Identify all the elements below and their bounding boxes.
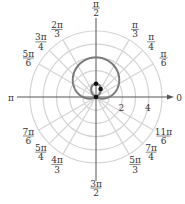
angle-numerator: π bbox=[132, 20, 138, 30]
angle-label: π bbox=[8, 93, 14, 103]
angle-denominator: 3 bbox=[54, 165, 60, 175]
angle-label: 7π4 bbox=[145, 143, 157, 163]
angle-label: 3π2 bbox=[90, 179, 102, 199]
angle-numerator: 5π bbox=[129, 155, 141, 165]
angle-label: 4π3 bbox=[51, 155, 63, 175]
angle-label: 3π4 bbox=[35, 32, 47, 52]
angle-label-text: 0 bbox=[176, 93, 182, 103]
arrow-icon bbox=[167, 95, 174, 100]
angle-label-text: π bbox=[8, 93, 14, 103]
angle-denominator: 6 bbox=[161, 58, 167, 68]
angle-label: 7π6 bbox=[23, 127, 35, 147]
angle-denominator: 3 bbox=[54, 29, 60, 39]
angle-denominator: 4 bbox=[38, 42, 44, 52]
angle-denominator: 2 bbox=[93, 188, 99, 198]
angle-denominator: 3 bbox=[132, 165, 138, 175]
angle-label: 5π3 bbox=[129, 155, 141, 175]
data-point bbox=[98, 87, 103, 92]
angle-numerator: π bbox=[161, 49, 167, 59]
angle-numerator: 4π bbox=[51, 155, 63, 165]
radial-tick-label: 2 bbox=[119, 103, 125, 113]
data-point bbox=[94, 82, 99, 87]
angle-denominator: 4 bbox=[148, 42, 154, 52]
angle-denominator: 4 bbox=[38, 152, 44, 162]
angle-label: π6 bbox=[160, 49, 168, 69]
angle-denominator: 2 bbox=[93, 8, 99, 18]
angle-label: π3 bbox=[131, 20, 139, 40]
angle-numerator: 5π bbox=[23, 49, 35, 59]
angle-numerator: 3π bbox=[35, 32, 47, 42]
angle-denominator: 3 bbox=[132, 29, 138, 39]
angle-numerator: 7π bbox=[23, 127, 35, 137]
angle-numerator: 3π bbox=[90, 179, 102, 189]
angle-numerator: 5π bbox=[35, 143, 47, 153]
angle-label: π2 bbox=[92, 0, 100, 18]
data-point bbox=[94, 95, 99, 100]
angle-denominator: 6 bbox=[161, 136, 167, 146]
polar-plot: 24 0π6π4π3π22π33π45π6π7π65π44π33π25π37π4… bbox=[0, 0, 185, 204]
angle-label: 5π6 bbox=[23, 49, 35, 69]
angle-label: 2π3 bbox=[51, 20, 63, 40]
angle-denominator: 6 bbox=[26, 58, 32, 68]
angle-numerator: π bbox=[148, 32, 154, 42]
angle-label: π4 bbox=[147, 32, 155, 52]
angle-label: 5π4 bbox=[35, 143, 47, 163]
angle-numerator: 7π bbox=[145, 143, 157, 153]
angle-numerator: 11π bbox=[155, 127, 172, 137]
angle-label: 0 bbox=[176, 93, 182, 103]
angle-denominator: 4 bbox=[148, 152, 154, 162]
radial-tick-label: 4 bbox=[145, 103, 151, 113]
angle-label: 11π6 bbox=[155, 127, 172, 147]
angle-denominator: 6 bbox=[26, 136, 32, 146]
angle-numerator: 2π bbox=[51, 20, 63, 30]
